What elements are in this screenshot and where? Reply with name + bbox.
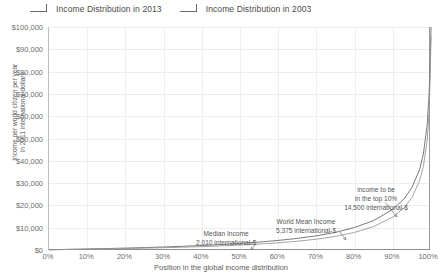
plot-area xyxy=(48,27,430,250)
y-tick-5: $50,000 xyxy=(16,134,43,143)
annotation-world-mean: World Mean Income 5,375 international-$ xyxy=(276,218,336,236)
x-tick-5: 50% xyxy=(231,252,246,261)
annotation-top10-line2: in the top 10% xyxy=(344,195,408,204)
legend-item-2013[interactable]: Income Distribution in 2013 xyxy=(30,4,162,14)
legend-item-2003[interactable]: Income Distribution in 2003 xyxy=(180,4,312,14)
annotation-median-line2: 2,010 international-$ xyxy=(196,239,256,248)
series-line-2003 xyxy=(49,36,431,250)
y-tick-6: $60,000 xyxy=(16,112,43,121)
y-tick-7: $70,000 xyxy=(16,89,43,98)
y-tick-1: $10,000 xyxy=(16,223,43,232)
y-tick-9: $90,000 xyxy=(16,45,43,54)
annotation-top10-line1: income to be xyxy=(344,186,408,195)
x-tick-2: 20% xyxy=(117,252,132,261)
chart-root: Income Distribution in 2013 Income Distr… xyxy=(0,0,442,275)
x-tick-10: 100% xyxy=(418,252,437,261)
y-axis-tick-labels: $0 $10,000 $20,000 $30,000 $40,000 $50,0… xyxy=(0,27,46,250)
line-step-icon xyxy=(180,4,202,14)
annotation-mean-line2: 5,375 international-$ xyxy=(276,227,336,236)
x-tick-0: 0% xyxy=(43,252,54,261)
y-tick-8: $80,000 xyxy=(16,67,43,76)
chart-legend: Income Distribution in 2013 Income Distr… xyxy=(30,4,311,14)
series-line-2013 xyxy=(49,27,431,250)
annotation-median-line1: Median Income xyxy=(196,230,256,239)
annotation-arrow-mean xyxy=(340,232,346,240)
x-tick-1: 10% xyxy=(79,252,94,261)
y-tick-4: $40,000 xyxy=(16,156,43,165)
x-tick-4: 40% xyxy=(193,252,208,261)
annotation-top10-line3: 14,500 international-$ xyxy=(344,204,408,213)
series-lines xyxy=(49,27,431,250)
legend-label-2003: Income Distribution in 2003 xyxy=(206,4,312,14)
x-tick-8: 80% xyxy=(346,252,361,261)
x-tick-7: 70% xyxy=(308,252,323,261)
y-tick-2: $20,000 xyxy=(16,201,43,210)
x-tick-9: 90% xyxy=(384,252,399,261)
legend-label-2013: Income Distribution in 2013 xyxy=(56,4,162,14)
x-tick-3: 30% xyxy=(155,252,170,261)
y-tick-10: $100,000 xyxy=(12,23,43,32)
annotation-mean-line1: World Mean Income xyxy=(276,218,336,227)
line-step-icon xyxy=(30,4,52,14)
x-axis-title: Position in the global income distributi… xyxy=(0,263,442,272)
y-tick-3: $30,000 xyxy=(16,179,43,188)
x-tick-6: 60% xyxy=(270,252,285,261)
annotation-median: Median Income 2,010 international-$ xyxy=(196,230,256,248)
annotation-top10: income to be in the top 10% 14,500 inter… xyxy=(344,186,408,213)
